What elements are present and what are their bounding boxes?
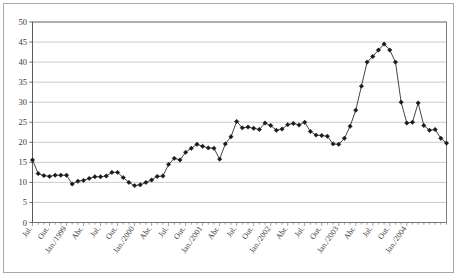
y-tick-label-40: 40: [19, 57, 28, 67]
x-tick-label-8: Jul.: [156, 224, 170, 238]
x-tick-label-12: Jul.: [224, 224, 238, 238]
y-tick-label-45: 45: [19, 37, 28, 47]
y-tick-label-25: 25: [19, 117, 28, 127]
y-tick-label-10: 10: [19, 177, 28, 187]
y-tick-label-50: 50: [19, 17, 28, 27]
x-tick-label-7: Abr.: [138, 224, 153, 241]
y-tick-label-35: 35: [19, 77, 28, 87]
x-tick-label-11: Abr.: [206, 224, 221, 241]
y-tick-label-20: 20: [19, 137, 28, 147]
x-tick-label-17: Out.: [308, 224, 323, 241]
x-tick-label-3: Abr.: [70, 224, 85, 241]
x-tick-label-13: Out.: [240, 224, 255, 241]
x-tick-label-4: Jul.: [88, 224, 102, 238]
line-chart: 05101520253035404550Jul.Out.Jan./1999Abr…: [0, 0, 458, 277]
x-tick-label-16: Jul.: [292, 224, 306, 238]
chart-figure: 05101520253035404550Jul.Out.Jan./1999Abr…: [0, 0, 458, 277]
y-tick-label-30: 30: [19, 97, 28, 107]
y-tick-label-15: 15: [19, 157, 28, 167]
x-tick-label-1: Out.: [36, 224, 51, 241]
x-tick-label-5: Out.: [104, 224, 119, 241]
y-axis-ticks: 05101520253035404550: [19, 17, 33, 228]
x-tick-label-19: Abr.: [342, 224, 357, 241]
x-tick-label-20: Jul.: [361, 224, 375, 238]
y-tick-label-5: 5: [23, 197, 27, 207]
x-axis-labels: Jul.Out.Jan./1999Abr.Jul.Out.Jan./2000Ab…: [20, 224, 408, 254]
x-tick-label-15: Abr.: [274, 224, 289, 241]
x-tick-label-9: Out.: [172, 224, 187, 241]
x-tick-label-21: Out.: [376, 224, 391, 241]
